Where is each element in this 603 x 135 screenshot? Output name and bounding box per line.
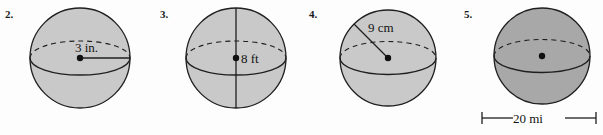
problem-number-4: 4. [309, 8, 317, 20]
problem-4: 4. 9 cm [300, 0, 455, 135]
sphere-svg-5 [490, 6, 598, 110]
sphere-svg-2 [28, 5, 136, 115]
sphere-figure-2 [28, 5, 136, 115]
center-dot-3 [233, 55, 239, 61]
problem-3: 3. 8 ft [150, 0, 300, 135]
sphere-figure-5 [490, 6, 598, 110]
dimension-label-2: 3 in. [75, 40, 98, 56]
center-dot-4 [385, 55, 391, 61]
problem-number-3: 3. [160, 8, 168, 20]
sphere-figure-3 [181, 5, 291, 115]
dimension-label-4: 9 cm [368, 20, 394, 36]
problem-number-2: 2. [5, 8, 13, 20]
problem-5: 5. 20 mi [455, 0, 603, 135]
sphere-svg-3 [181, 5, 291, 115]
dimension-label-3: 8 ft [241, 51, 259, 67]
exercise-figure-strip: 2. 3 in. 3. 8 ft 4. [0, 0, 603, 135]
center-dot-5 [539, 53, 545, 59]
problem-number-5: 5. [464, 8, 472, 20]
scale-label-5: 20 mi [513, 111, 543, 127]
problem-2: 2. 3 in. [0, 0, 150, 135]
